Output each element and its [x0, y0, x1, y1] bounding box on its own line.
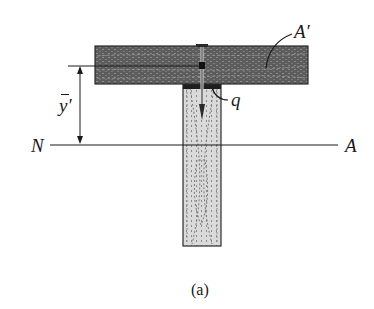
t-beam-diagram: A′ q y′ N A (a) — [0, 0, 374, 309]
neutral-axis-label-a: A — [345, 136, 357, 155]
area-label: A′ — [294, 22, 310, 41]
t-beam-drawing — [0, 0, 374, 309]
dimension-arrow — [77, 66, 83, 144]
centroid-distance-prime: ′ — [67, 95, 71, 116]
shear-flow-label: q — [231, 90, 241, 109]
neutral-axis-label-n: N — [31, 136, 44, 155]
centroid-distance-label: y′ — [59, 96, 72, 115]
figure-caption: (a) — [191, 282, 209, 298]
centroid-distance-base: y — [59, 96, 67, 115]
